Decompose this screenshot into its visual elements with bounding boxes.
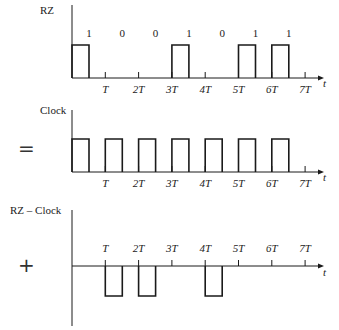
pulse	[72, 139, 89, 172]
tick-label: 2T	[133, 242, 146, 254]
bit-label: 0	[153, 27, 159, 39]
pulse	[105, 139, 122, 172]
bit-label: 0	[219, 27, 225, 39]
x-axis-label: t	[323, 77, 327, 89]
tick-label: 6T	[266, 83, 279, 95]
tick-label: 7T	[299, 177, 312, 189]
tick-label: T	[102, 83, 109, 95]
tick-label: 5T	[233, 83, 246, 95]
pulse	[139, 266, 156, 296]
tick-label: 6T	[266, 242, 279, 254]
tick-label: 4T	[199, 83, 212, 95]
tick-label: T	[102, 177, 109, 189]
pulse	[239, 45, 256, 78]
tick-label: 4T	[199, 242, 212, 254]
plot-rz-minus-clock: tT2T3T4T5T6T7TRZ – Clock+	[10, 204, 327, 326]
pulse	[205, 139, 222, 172]
tick-label: 4T	[199, 177, 212, 189]
equals-sign: =	[18, 136, 35, 160]
pulse	[205, 266, 222, 296]
plot-label: Clock	[40, 104, 67, 116]
tick-label: 5T	[233, 177, 246, 189]
tick-label: 3T	[165, 177, 179, 189]
pulse	[172, 139, 189, 172]
plot-label: RZ – Clock	[10, 204, 62, 216]
pulse	[239, 139, 256, 172]
bit-label: 0	[120, 27, 126, 39]
plot-rz: tT2T3T4T5T6T7T1001011RZ	[40, 4, 327, 95]
bit-label: 1	[286, 27, 292, 39]
plot-label: RZ	[40, 4, 54, 16]
tick-label: 6T	[266, 177, 279, 189]
tick-label: 5T	[233, 242, 246, 254]
tick-label: T	[102, 242, 109, 254]
pulse	[72, 45, 89, 78]
pulse	[272, 139, 289, 172]
pulse	[139, 139, 156, 172]
plus-sign: +	[18, 253, 35, 277]
tick-label: 2T	[133, 177, 146, 189]
pulse	[105, 266, 122, 296]
tick-label: 7T	[299, 83, 312, 95]
bit-label: 1	[253, 27, 259, 39]
x-axis-label: t	[323, 171, 327, 183]
pulse	[272, 45, 289, 78]
tick-label: 2T	[133, 83, 146, 95]
plot-clock: tT2T3T4T5T6T7TClock=	[18, 104, 327, 189]
waveform-diagram: tT2T3T4T5T6T7T1001011RZtT2T3T4T5T6T7TClo…	[0, 0, 339, 330]
tick-label: 3T	[165, 242, 179, 254]
tick-label: 3T	[165, 83, 179, 95]
bit-label: 1	[86, 27, 92, 39]
tick-label: 7T	[299, 242, 312, 254]
bit-label: 1	[186, 27, 192, 39]
pulse	[172, 45, 189, 78]
x-axis-label: t	[323, 266, 327, 278]
